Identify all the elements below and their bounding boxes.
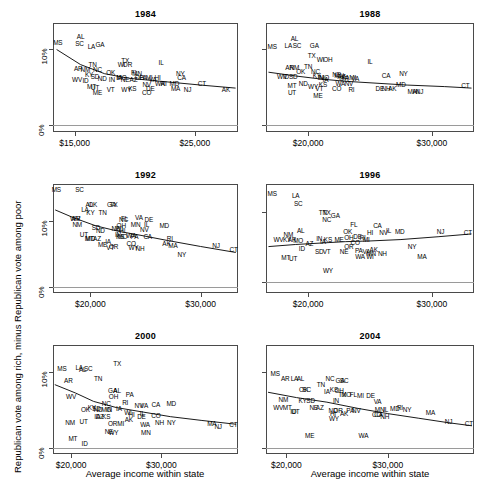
x-tick-mark — [308, 293, 309, 297]
state-point-label: TN — [98, 210, 106, 216]
panel-2004: 2004$20,000$30,000MSARLAALNCGASCTNOKSCIA… — [266, 345, 474, 454]
x-tick-mark — [388, 454, 389, 458]
state-point-label: NY — [408, 243, 417, 249]
state-point-label: NH — [378, 251, 387, 257]
state-point-label: ID — [299, 246, 305, 252]
state-point-label: ID — [82, 441, 88, 447]
x-tick-mark — [286, 454, 287, 458]
state-point-label: CT — [461, 83, 469, 89]
state-point-label: CA — [152, 402, 161, 408]
state-point-label: MA — [426, 410, 435, 416]
state-point-label: CA — [143, 233, 152, 239]
state-point-label: IL — [140, 410, 145, 416]
state-point-label: MD — [395, 229, 405, 235]
state-point-label: NV — [140, 227, 149, 233]
state-point-label: OR — [109, 244, 118, 250]
state-point-label: WV — [273, 237, 283, 243]
state-point-label: UT — [80, 231, 88, 237]
state-point-label: SC — [340, 378, 349, 384]
state-point-label: ME — [313, 92, 322, 98]
x-tick-label: $20,000 — [293, 138, 324, 148]
state-point-label: WI — [366, 254, 374, 260]
panel-1992: 19920%10%$20,000$30,000MSSCALOKLAGATXKYT… — [53, 184, 238, 293]
state-point-label: AZ — [305, 241, 313, 247]
state-point-label: NY — [403, 407, 412, 413]
state-point-label: NV — [345, 81, 354, 87]
state-point-label: TN — [94, 375, 102, 381]
state-point-label: MS — [268, 191, 277, 197]
state-point-label: LA — [88, 44, 96, 50]
x-tick-label: $25,000 — [179, 138, 210, 148]
x-tick-mark — [432, 293, 433, 297]
state-point-label: NY — [399, 71, 408, 77]
x-tick-mark — [75, 132, 76, 136]
y-tick-label: 10% — [40, 220, 49, 236]
state-point-label: NJ — [184, 87, 192, 93]
figure-panel-grid: Republican vote among rich, minus Republ… — [0, 0, 482, 491]
state-point-label: OR — [123, 61, 132, 67]
state-point-label: CT — [229, 247, 237, 253]
state-point-label: MT — [68, 436, 77, 442]
state-point-label: OK — [88, 201, 97, 207]
state-point-label: MI — [363, 236, 370, 242]
state-point-label: LA — [285, 43, 293, 49]
state-point-label: ME — [305, 433, 314, 439]
state-point-label: VT — [323, 248, 331, 254]
x-tick-mark — [432, 132, 433, 136]
x-tick-label: $20,000 — [56, 460, 87, 470]
state-point-label: ID — [283, 74, 289, 80]
state-point-label: LA — [292, 193, 300, 199]
state-point-label: IL — [159, 60, 164, 66]
state-point-label: ND — [98, 76, 107, 82]
state-point-label: GA — [310, 43, 319, 49]
state-point-label: MN — [141, 429, 151, 435]
state-point-label: MA — [168, 243, 177, 249]
x-tick-mark — [195, 132, 196, 136]
state-point-label: WA — [126, 233, 136, 239]
state-point-label: WY — [108, 430, 118, 436]
state-point-label: UT — [291, 409, 299, 415]
state-point-label: PA — [126, 392, 134, 398]
state-point-label: IL — [367, 59, 372, 65]
state-point-label: RI — [122, 400, 128, 406]
state-point-label: KS — [128, 86, 136, 92]
state-point-label: AZ — [316, 405, 324, 411]
x-tick-mark — [201, 293, 202, 297]
state-point-label: MI — [117, 421, 124, 427]
state-point-label: AR — [281, 376, 290, 382]
state-point-label: MS — [268, 44, 277, 50]
state-point-label: NJ — [212, 243, 220, 249]
state-point-label: IN — [333, 397, 339, 403]
x-tick-label: $15,000 — [59, 138, 90, 148]
panel-2000: 20000%10%$20,000$30,000MSLAALSCTXARTNGAA… — [53, 345, 238, 454]
state-point-label: WV — [273, 405, 283, 411]
state-point-label: MS — [52, 187, 61, 193]
x-tick-label: $20,000 — [75, 299, 106, 309]
y-tick-label: 0% — [37, 287, 46, 299]
panel-1984: 19840%10%$15,000$25,000MSALSCLAGAARNMTNN… — [53, 23, 238, 132]
state-point-label: MI — [357, 393, 364, 399]
state-point-label: NY — [167, 420, 176, 426]
state-point-label: GA — [95, 42, 104, 48]
state-point-label: GA — [331, 213, 340, 219]
y-tick-label: 0% — [37, 125, 46, 137]
state-point-label: AL — [297, 228, 305, 234]
state-point-label: NE — [340, 248, 349, 254]
state-point-label: IA — [320, 239, 326, 245]
state-point-label: NH — [380, 413, 389, 419]
fit-curve — [53, 345, 238, 454]
state-point-label: UT — [289, 256, 297, 262]
x-tick-label: $30,000 — [146, 460, 177, 470]
state-point-label: CA — [382, 73, 391, 79]
x-tick-mark — [71, 454, 72, 458]
state-point-label: IN — [109, 77, 115, 83]
state-point-label: MN — [131, 222, 141, 228]
state-point-label: ND — [96, 227, 105, 233]
state-point-label: MS — [53, 39, 62, 45]
state-point-label: NV — [352, 408, 361, 414]
state-point-label: OR — [108, 420, 117, 426]
state-point-label: SC — [84, 365, 93, 371]
state-point-label: TX — [308, 52, 316, 58]
state-point-label: CT — [465, 420, 473, 426]
state-point-label: AL — [297, 375, 305, 381]
